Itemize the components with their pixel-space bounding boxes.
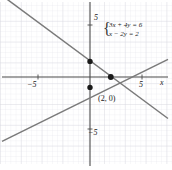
- graph-figure: { 3x + 4y = 6 x − 2y = 2 (2, 0) −5 5 5 −…: [0, 0, 172, 170]
- x-axis-label: x: [160, 78, 164, 87]
- y-tick-label-neg5: −5: [88, 128, 97, 137]
- point-intersection: [108, 74, 114, 80]
- equation-line-1: 3x + 4y = 6: [106, 21, 164, 30]
- x-tick-label-neg5: −5: [27, 80, 36, 89]
- point-y-intercept-2: [87, 85, 92, 90]
- brace-glyph: {: [103, 21, 111, 36]
- system-of-equations: { 3x + 4y = 6 x − 2y = 2: [106, 21, 164, 39]
- intersection-label: (2, 0): [98, 94, 115, 103]
- x-tick-label-5: 5: [139, 80, 143, 89]
- equation-line-2: x − 2y = 2: [106, 30, 164, 39]
- point-y-intercept-1: [87, 59, 92, 64]
- y-tick-label-5: 5: [94, 13, 98, 22]
